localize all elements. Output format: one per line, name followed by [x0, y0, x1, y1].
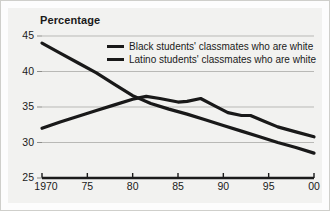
- legend-label: Latino students' classmates who are whit…: [129, 54, 316, 65]
- y-axis-tick-label: 35: [12, 100, 34, 112]
- legend-item: Black students' classmates who are white: [107, 40, 316, 52]
- x-axis-tick-label: 90: [206, 180, 240, 192]
- x-axis-tick-label: 80: [116, 180, 150, 192]
- legend-swatch-icon: [107, 45, 124, 48]
- legend-item: Latino students' classmates who are whit…: [107, 53, 316, 65]
- page-title: Percentage: [40, 14, 100, 26]
- x-axis-tick-label: 1970: [29, 180, 63, 192]
- legend-swatch-icon: [107, 58, 124, 61]
- x-axis-tick-label: 85: [161, 180, 195, 192]
- y-axis-tick-label: 30: [12, 136, 34, 148]
- y-axis-tick-label: 45: [12, 29, 34, 41]
- legend-label: Black students' classmates who are white: [129, 41, 313, 52]
- chart-legend: Black students' classmates who are white…: [107, 40, 316, 66]
- x-axis-tick-label: 95: [252, 180, 286, 192]
- data-line-series-2: [42, 96, 314, 136]
- y-axis-tick-label: 40: [12, 65, 34, 77]
- chart-figure: Percentage 4540353025 1970758085909500 B…: [0, 0, 330, 211]
- x-axis-tick-label: 00: [297, 180, 330, 192]
- x-axis-tick-label: 75: [70, 180, 104, 192]
